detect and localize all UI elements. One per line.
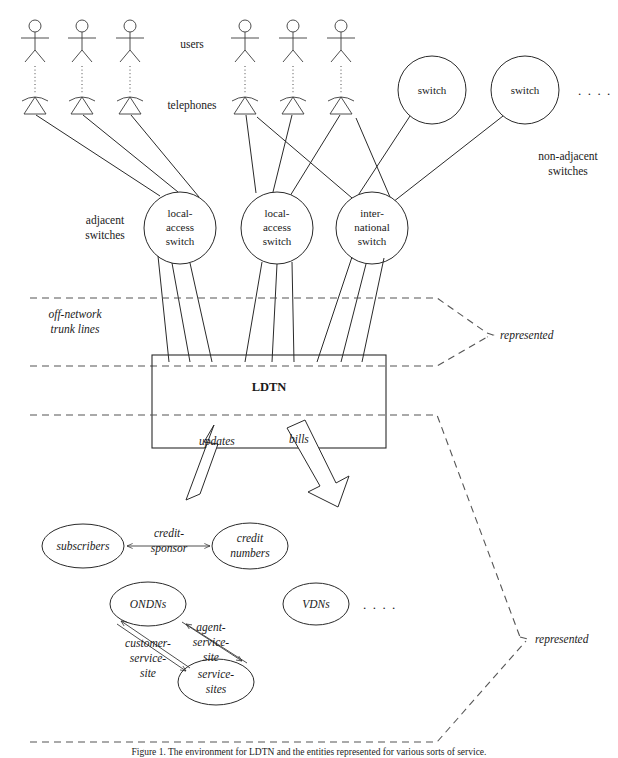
switch-node-2[interactable]: switch xyxy=(491,56,559,124)
switch-node-2-label: switch xyxy=(511,84,540,96)
local-access-switch-2-line1: local- xyxy=(264,207,289,219)
access-switches-group: local- access switch local- access switc… xyxy=(144,192,408,264)
international-switch-line3: switch xyxy=(358,235,387,247)
local-access-switch-1[interactable]: local- access switch xyxy=(144,192,216,264)
user-station-2 xyxy=(68,20,178,192)
credit-numbers-label-line1: credit xyxy=(237,532,264,544)
ldtn-box[interactable]: LDTN xyxy=(152,355,386,448)
entity-ellipsis-label: . . . . xyxy=(363,597,397,612)
service-sites-label-line1: service- xyxy=(198,668,235,680)
local-access-switch-2-line3: switch xyxy=(263,235,292,247)
figure-container: users telephones switch switch . . . . n… xyxy=(0,0,618,758)
stick-figure-icon xyxy=(68,20,96,62)
network-environment-diagram: users telephones switch switch . . . . n… xyxy=(0,0,618,758)
switch-ellipsis-label: . . . . xyxy=(578,83,612,98)
telephone-icon xyxy=(117,97,143,114)
bills-arrow: bills xyxy=(287,420,349,507)
adjacent-switches-label-line2: switches xyxy=(85,229,125,241)
user-station-5 xyxy=(272,20,307,196)
updates-arrow-label: updates xyxy=(199,435,235,448)
agent-service-site-label-line2: service- xyxy=(193,636,230,648)
stick-figure-icon xyxy=(231,20,259,62)
agent-service-site-label-line1: agent- xyxy=(196,621,226,634)
local-access-switch-1-line3: switch xyxy=(166,235,195,247)
non-adjacent-switches-group: switch switch . . . . non-adjacent switc… xyxy=(355,56,612,202)
local-access-switch-1-line1: local- xyxy=(167,207,192,219)
local-access-switch-1-line2: access xyxy=(166,221,194,233)
upper-represented-boundary: represented xyxy=(30,298,554,366)
local-access-switch-2[interactable]: local- access switch xyxy=(241,192,313,264)
telephone-icon xyxy=(69,97,95,114)
credit-numbers-label-line2: numbers xyxy=(230,547,270,559)
non-adjacent-switches-label-line2: switches xyxy=(548,165,588,177)
stick-figure-icon xyxy=(116,20,144,62)
subscribers-node[interactable]: subscribers xyxy=(42,524,124,568)
adjacent-switches-label-line1: adjacent xyxy=(86,214,125,227)
local-access-switch-2-line2: access xyxy=(263,221,291,233)
entity-ellipses-group: subscribers credit numbers ONDNs VDNs se… xyxy=(42,523,397,705)
international-switch-line2: national xyxy=(354,221,389,233)
stick-figure-icon xyxy=(279,20,307,62)
agent-service-site-label-line3: site xyxy=(203,651,219,663)
updates-arrow: updates xyxy=(186,425,235,500)
subscribers-label: subscribers xyxy=(56,540,110,552)
users-label: users xyxy=(180,38,204,50)
credit-sponsor-label-line1: credit- xyxy=(154,527,184,539)
switch-node-1[interactable]: switch xyxy=(398,56,466,124)
user-station-4 xyxy=(231,20,259,193)
telephone-icon xyxy=(22,97,48,114)
customer-service-site-label-line3: site xyxy=(140,667,156,679)
vdns-label: VDNs xyxy=(302,598,330,610)
stick-figure-icon xyxy=(327,20,355,62)
telephone-switch-links xyxy=(257,117,390,198)
represented-label-lower: represented xyxy=(535,633,589,646)
telephones-label: telephones xyxy=(167,99,217,112)
trunk-lines-group xyxy=(158,256,384,362)
international-switch[interactable]: inter- national switch xyxy=(336,192,408,264)
service-sites-node[interactable]: service- sites xyxy=(178,659,254,705)
off-network-label-line2: trunk lines xyxy=(51,323,100,335)
stick-figure-icon xyxy=(21,20,49,62)
telephone-icon xyxy=(280,97,306,114)
bills-arrow-label: bills xyxy=(289,433,309,445)
non-adjacent-switches-label-line1: non-adjacent xyxy=(538,150,598,163)
service-sites-label-line2: sites xyxy=(206,683,227,695)
credit-sponsor-label-line2: sponsor xyxy=(151,542,188,555)
credit-numbers-node[interactable]: credit numbers xyxy=(212,523,288,569)
international-switch-line1: inter- xyxy=(360,207,384,219)
represented-label-upper: represented xyxy=(500,329,554,342)
ondns-label: ONDNs xyxy=(130,598,167,610)
customer-service-site-label-line1: customer- xyxy=(125,637,171,649)
vdns-node[interactable]: VDNs xyxy=(283,583,349,625)
user-station-1 xyxy=(21,20,160,196)
telephone-icon xyxy=(328,97,354,114)
off-network-label-line1: off-network xyxy=(48,308,102,321)
ondns-node[interactable]: ONDNs xyxy=(110,582,186,626)
customer-service-site-label-line2: service- xyxy=(130,652,167,664)
ldtn-label: LDTN xyxy=(252,380,287,394)
figure-caption: Figure 1. The environment for LDTN and t… xyxy=(132,747,487,757)
switch-node-1-label: switch xyxy=(418,84,447,96)
telephone-icon xyxy=(232,97,258,114)
